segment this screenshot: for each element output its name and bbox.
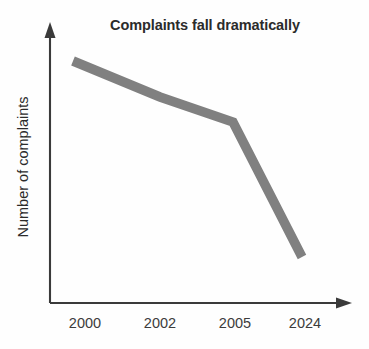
chart-figure: Complaints fall dramatically Number of c… — [0, 0, 369, 349]
x-tick-label-2002: 2002 — [144, 315, 176, 331]
chart-title: Complaints fall dramatically — [110, 17, 300, 33]
plot-background — [0, 0, 369, 349]
x-tick-label-2000: 2000 — [69, 315, 101, 331]
x-tick-label-2024: 2024 — [289, 315, 321, 331]
y-axis-title: Number of complaints — [15, 96, 31, 237]
x-tick-label-2005: 2005 — [219, 315, 251, 331]
chart-canvas: Complaints fall dramatically Number of c… — [0, 0, 369, 349]
